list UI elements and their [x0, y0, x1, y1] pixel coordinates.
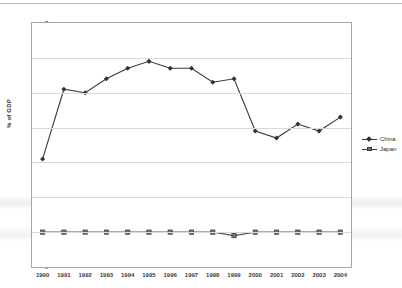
- series-japan: [40, 230, 342, 238]
- legend-item-china[interactable]: China: [362, 134, 396, 144]
- gridline: [32, 197, 351, 198]
- gridline: [32, 232, 351, 233]
- gridline: [32, 128, 351, 129]
- diamond-marker-icon: [125, 66, 130, 71]
- gridline: [32, 93, 351, 94]
- diamond-marker-icon: [40, 156, 45, 161]
- gridline: [32, 58, 351, 59]
- legend-label: China: [380, 136, 396, 143]
- diamond-marker-icon: [168, 66, 173, 71]
- diamond-marker-icon: [231, 76, 236, 81]
- top-divider: [0, 3, 402, 4]
- series-line: [43, 61, 341, 159]
- series-china: [40, 59, 343, 162]
- legend-label: Japan: [380, 146, 396, 153]
- plot-area: [31, 22, 352, 268]
- diamond-marker-icon: [146, 59, 151, 64]
- diamond-marker-icon: [253, 129, 258, 134]
- legend-item-japan[interactable]: Japan: [362, 144, 396, 154]
- series-layer: [32, 23, 351, 267]
- chart-legend: ChinaJapan: [362, 134, 396, 154]
- chart-figure: % of GDP 01234567 1990199119921993199419…: [0, 0, 402, 288]
- square-marker-icon: [232, 233, 236, 237]
- x-axis-tick: 2004: [325, 272, 355, 279]
- gridline: [32, 162, 351, 163]
- diamond-marker-icon: [61, 87, 66, 92]
- diamond-marker-icon: [362, 135, 377, 143]
- square-marker-icon: [362, 145, 377, 153]
- y-axis-label: % of GDP: [6, 99, 12, 128]
